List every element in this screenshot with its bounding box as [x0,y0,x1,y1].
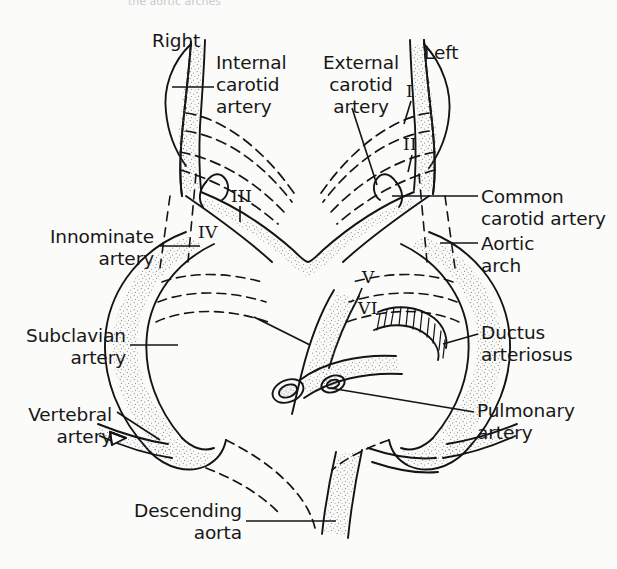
leader-arch-internal-2 [254,317,310,345]
label-vertebral-artery: Vertebral artery [0,404,112,448]
label-aortic-arch: Aortic arch [481,233,534,277]
label-left: Left [424,42,458,64]
label-ductus-arteriosus: Ductus arteriosus [481,322,573,366]
label-internal-carotid-artery: Internal carotid artery [216,52,287,117]
leader-pulmonary [330,388,474,412]
leader-external-carotid [352,108,377,185]
label-subclavian-artery: Subclavian artery [0,325,126,369]
arch-numeral-iii: III [231,188,252,205]
leader-ductus [443,334,478,344]
figure-page: the aortic arches [0,0,617,569]
label-common-carotid-artery: Common carotid artery [481,186,606,230]
aortic-arch-illustration [0,0,617,569]
pulmonary-trunk [269,290,402,414]
leader-arch-i [404,101,411,124]
third-arch-left [374,174,402,207]
arch-numeral-iv: IV [198,224,218,241]
label-innominate-artery: Innominate artery [12,226,154,270]
arch-numeral-vi: VI [358,300,378,317]
label-right: Right [152,30,200,52]
label-descending-aorta: Descending aorta [96,500,242,544]
arch-numeral-i: I [406,83,413,100]
label-pulmonary-artery: Pulmonary artery [477,400,575,444]
truncus-arteriosus [186,192,429,278]
segment-boundary-lines [160,174,455,268]
leader-arch-ii [408,155,412,172]
arch-numeral-v: V [362,269,375,286]
right-carotid-trunk [165,40,205,196]
label-external-carotid-artery: External carotid artery [318,52,404,117]
arch-numeral-ii: II [403,136,417,153]
